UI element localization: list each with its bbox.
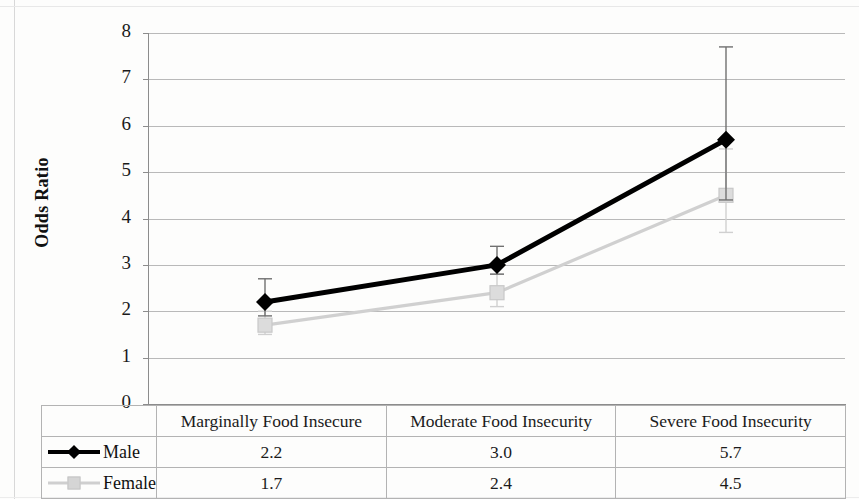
y-tick-1	[143, 358, 149, 359]
y-tick-2	[143, 311, 149, 312]
y-tick-7	[143, 79, 149, 80]
y-tick-label-7: 7	[101, 66, 131, 88]
y-tick-label-4: 4	[101, 206, 131, 228]
y-tick-label-3: 3	[101, 252, 131, 274]
cell-male-3: 5.7	[616, 437, 846, 468]
data-table: Marginally Food Insecure Moderate Food I…	[41, 405, 846, 499]
gridline-5	[148, 172, 845, 173]
gridline-3	[148, 265, 845, 266]
y-axis-title: Odds Ratio	[32, 123, 53, 283]
y-tick-6	[143, 126, 149, 127]
page-edge-left	[14, 0, 15, 499]
y-tick-label-2: 2	[101, 298, 131, 320]
table-row-male: Male 2.2 3.0 5.7	[42, 437, 846, 468]
cell-female-1: 1.7	[156, 468, 386, 499]
column-header-1: Marginally Food Insecure	[156, 406, 386, 437]
table-header-row: Marginally Food Insecure Moderate Food I…	[42, 406, 846, 437]
column-header-3: Severe Food Insecurity	[616, 406, 846, 437]
legend-item-female[interactable]: Female	[42, 468, 157, 499]
y-tick-label-6: 6	[101, 113, 131, 135]
y-tick-label-5: 5	[101, 159, 131, 181]
legend-item-male[interactable]: Male	[42, 437, 157, 468]
legend-header-blank	[42, 406, 157, 437]
y-tick-8	[143, 33, 149, 34]
y-tick-label-8: 8	[101, 20, 131, 42]
figure-container: Odds Ratio 876543210 Marginally Food Ins…	[0, 0, 859, 499]
cell-male-2: 3.0	[386, 437, 616, 468]
y-tick-label-1: 1	[101, 345, 131, 367]
gridline-8	[148, 33, 845, 34]
square-marker-icon	[48, 475, 100, 491]
gridline-6	[148, 126, 845, 127]
gridline-4	[148, 219, 845, 220]
cell-female-2: 2.4	[386, 468, 616, 499]
column-header-2: Moderate Food Insecurity	[386, 406, 616, 437]
diamond-marker-icon	[48, 444, 100, 460]
plot-area	[148, 33, 845, 404]
cell-female-3: 4.5	[616, 468, 846, 499]
y-tick-4	[143, 219, 149, 220]
y-tick-0	[143, 404, 149, 405]
table-row-female: Female 1.7 2.4 4.5	[42, 468, 846, 499]
gridline-7	[148, 79, 845, 80]
cell-male-1: 2.2	[156, 437, 386, 468]
y-tick-5	[143, 172, 149, 173]
y-tick-3	[143, 265, 149, 266]
legend-label-male: Male	[103, 442, 140, 463]
gridline-2	[148, 311, 845, 312]
gridline-1	[148, 358, 845, 359]
legend-label-female: Female	[103, 473, 156, 494]
